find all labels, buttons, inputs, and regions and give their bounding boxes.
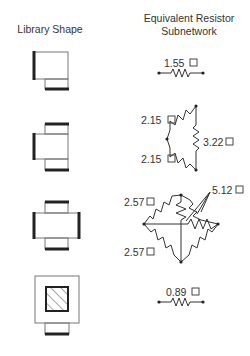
- square-unit-icon: [236, 186, 243, 193]
- square-unit-icon: [226, 138, 233, 145]
- resistor-value-2a: 2.15: [141, 114, 162, 126]
- resistor-icon: [167, 106, 196, 139]
- diagram-canvas: 1.55 2.15 2.15 3.22: [0, 0, 250, 356]
- square-unit-icon: [192, 288, 199, 295]
- node-dot: [157, 300, 160, 303]
- node-dot: [142, 222, 145, 225]
- resistor-value-3c: 5.12: [212, 184, 233, 196]
- node-dot: [194, 168, 197, 171]
- node-dot: [201, 300, 204, 303]
- resistor-network-2: [165, 104, 199, 171]
- node-dot: [157, 71, 160, 74]
- resistor-value-4: 0.89: [166, 286, 187, 298]
- node-dot: [194, 104, 197, 107]
- resistor-value-2b: 2.15: [141, 153, 162, 165]
- resistor-icon: [159, 298, 203, 306]
- resistor-value-3a: 2.57: [124, 196, 145, 208]
- library-shape-1: [34, 51, 69, 89]
- resistor-icon: [181, 224, 218, 262]
- node-dot: [201, 71, 204, 74]
- resistor-network-4: 0.89: [157, 286, 204, 306]
- library-shape-3: [34, 202, 79, 249]
- resistor-value-3b: 2.57: [124, 246, 145, 258]
- library-shape-2: [34, 124, 69, 170]
- resistor-network-1: 1.55: [157, 57, 204, 77]
- resistor-icon: [159, 69, 203, 77]
- resistor-icon: [144, 224, 181, 262]
- resistor-icon: [144, 195, 181, 224]
- resistor-icon: [167, 139, 196, 170]
- node-dot: [165, 137, 168, 140]
- node-dot: [216, 222, 219, 225]
- resistor-icon: [176, 195, 186, 224]
- library-shape-4: [35, 276, 79, 334]
- hatched-contact-icon: [46, 287, 68, 311]
- node-dot: [179, 193, 182, 196]
- square-unit-icon: [147, 248, 154, 255]
- node-dot: [179, 260, 182, 263]
- resistor-icon: [193, 106, 199, 170]
- resistor-value-2c: 3.22: [203, 136, 224, 148]
- resistor-value-1: 1.55: [164, 57, 185, 69]
- square-unit-icon: [190, 59, 197, 66]
- square-unit-icon: [147, 198, 154, 205]
